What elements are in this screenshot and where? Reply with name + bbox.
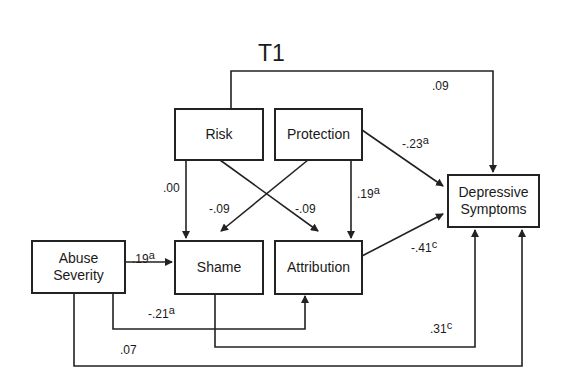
coef-risk-to-shame: .00	[163, 181, 180, 195]
node-attribution: Attribution	[274, 240, 363, 295]
node-abuse-severity-line1: Abuse	[59, 250, 99, 267]
node-attribution-label: Attribution	[287, 259, 350, 276]
node-depressive-line2: Symptoms	[460, 201, 526, 218]
node-risk-label: Risk	[205, 126, 232, 143]
node-risk: Risk	[174, 108, 264, 161]
node-shame: Shame	[174, 240, 264, 295]
arrow-abuse-to-attribution	[113, 293, 305, 329]
coef-abuse-to-shame: .19a	[132, 252, 155, 266]
coef-attribution-to-depressive: -.41c	[411, 241, 437, 255]
node-shame-label: Shame	[197, 259, 241, 276]
node-depressive-symptoms: Depressive Symptoms	[447, 174, 540, 228]
coef-protection-to-attribution: .19a	[357, 187, 380, 201]
node-abuse-severity: Abuse Severity	[31, 240, 126, 294]
coef-shame-to-depressive: .31c	[430, 322, 452, 336]
coef-abuse-to-depressive: .07	[120, 343, 137, 357]
node-depressive-line1: Depressive	[458, 184, 528, 201]
coef-protection-to-depressive: -.23a	[402, 137, 429, 151]
coef-risk-to-depressive: .09	[432, 79, 449, 93]
coef-protection-to-shame: -.09	[209, 202, 230, 216]
diagram-title: T1	[258, 40, 285, 67]
coef-abuse-to-attribution: -.21a	[148, 307, 175, 321]
node-protection-label: Protection	[287, 126, 350, 143]
coef-risk-to-attribution: -.09	[295, 202, 316, 216]
node-protection: Protection	[274, 108, 363, 161]
node-abuse-severity-line2: Severity	[53, 267, 104, 284]
